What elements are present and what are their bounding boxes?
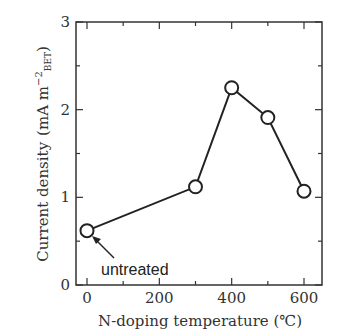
y-tick-label: 0 <box>60 276 70 294</box>
x-axis-title: N-doping temperature (℃) <box>98 312 302 330</box>
y-axis-title: Current density(mA m−2BET) <box>33 46 53 262</box>
x-tick-label: 600 <box>290 289 319 307</box>
line-chart: 0123 0200400600 N-doping temperature (℃)… <box>0 0 338 336</box>
data-markers <box>81 81 311 237</box>
x-tick-label: 0 <box>82 289 92 307</box>
x-axis-tick-labels: 0200400600 <box>82 289 318 307</box>
y-tick-label: 3 <box>60 13 70 31</box>
y-tick-label: 1 <box>60 188 70 206</box>
data-point-marker <box>225 81 238 94</box>
data-point-marker <box>189 180 202 193</box>
y-tick-label: 2 <box>60 101 70 119</box>
data-series-line <box>87 88 304 231</box>
y-axis-tick-labels: 0123 <box>60 13 70 294</box>
annotation-label: untreated <box>101 261 169 278</box>
data-point-marker <box>298 185 311 198</box>
untreated-annotation: untreated <box>92 236 169 278</box>
x-tick-label: 200 <box>145 289 174 307</box>
data-point-marker <box>81 224 94 237</box>
x-tick-label: 400 <box>217 289 246 307</box>
data-point-marker <box>261 111 274 124</box>
